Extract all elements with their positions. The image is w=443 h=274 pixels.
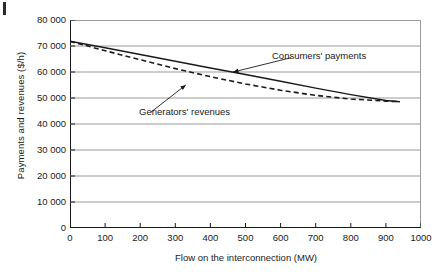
x-tick-label: 100 xyxy=(85,232,125,243)
y-tick-label: 60 000 xyxy=(6,67,66,77)
x-tick-label: 900 xyxy=(366,232,406,243)
plot-canvas xyxy=(70,20,421,228)
y-tick-label: 30 000 xyxy=(6,145,66,155)
y-tick-label: 80 000 xyxy=(6,15,66,25)
x-tick-label: 500 xyxy=(226,232,266,243)
x-tick-label: 1000 xyxy=(401,232,441,243)
x-tick-label: 200 xyxy=(120,232,160,243)
figure-container: Payments and revenues ($/h) 010 00020 00… xyxy=(0,0,443,274)
y-tick-label: 10 000 xyxy=(6,197,66,207)
y-tick-label: 50 000 xyxy=(6,93,66,103)
x-tick-label: 600 xyxy=(261,232,301,243)
y-tick-label: 20 000 xyxy=(6,171,66,181)
x-tick-marks xyxy=(70,223,421,228)
x-tick-label: 700 xyxy=(296,232,336,243)
y-tick-marks xyxy=(70,20,75,228)
annotation-consumers-payments: Consumers' payments xyxy=(272,50,366,61)
x-axis-tick-labels: 01002003004005006007008009001000 xyxy=(0,232,443,248)
x-tick-label: 300 xyxy=(155,232,195,243)
x-tick-label: 400 xyxy=(190,232,230,243)
annotation-generators-revenues: Generators' revenues xyxy=(139,106,230,117)
y-tick-label: 40 000 xyxy=(6,119,66,129)
x-tick-label: 800 xyxy=(331,232,371,243)
x-tick-label: 0 xyxy=(50,232,90,243)
annotation-leader-lines xyxy=(151,58,291,113)
y-tick-label: 70 000 xyxy=(6,41,66,51)
x-axis-title: Flow on the interconnection (MW) xyxy=(70,252,422,263)
